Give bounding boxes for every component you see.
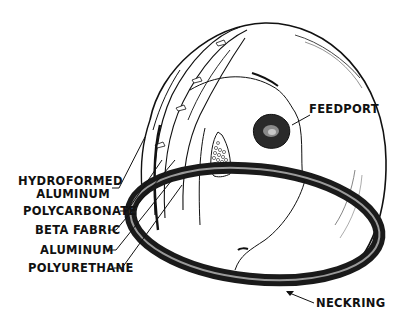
label-feedport: FEEDPORT xyxy=(309,103,379,116)
label-beta-fabric: BETA FABRIC xyxy=(35,224,121,237)
label-polycarbonate: POLYCARBONATE xyxy=(23,205,137,218)
feedport-knob xyxy=(253,114,289,148)
label-aluminum: ALUMINUM xyxy=(40,244,114,257)
helmet-illustration xyxy=(0,0,400,324)
neckring-ring xyxy=(125,156,385,292)
label-hydroformed-line2: ALUMINUM xyxy=(18,188,110,201)
label-hydroformed-aluminum: HYDROFORMED ALUMINUM xyxy=(18,175,110,201)
helmet-diagram: HYDROFORMED ALUMINUM POLYCARBONATE BETA … xyxy=(0,0,400,324)
label-neckring: NECKRING xyxy=(316,297,385,310)
label-polyurethane: POLYURETHANE xyxy=(28,262,134,275)
